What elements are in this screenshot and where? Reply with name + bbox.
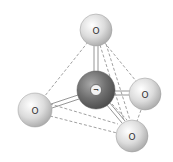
- atom-label: ¬: [93, 86, 99, 94]
- atom-top: O: [80, 14, 112, 46]
- atom-label: O: [141, 90, 148, 100]
- atom-label: O: [92, 26, 99, 36]
- atom-label: O: [128, 132, 135, 142]
- atom-center: ¬: [77, 71, 115, 109]
- atom-bottom: O: [116, 120, 148, 152]
- atom-label: O: [31, 106, 38, 116]
- bond-left-b: [52, 99, 79, 108]
- tetrahedral-molecule-diagram: O O ¬ O O: [0, 0, 173, 162]
- atom-right: O: [129, 78, 161, 110]
- edge-right-bottom: [137, 110, 141, 121]
- atom-left: O: [18, 93, 52, 127]
- bond-bottom-b: [109, 102, 125, 121]
- edge-left-bottom-b: [50, 104, 118, 124]
- edge-top-right: [104, 42, 136, 81]
- edge-center-bottom: [112, 104, 127, 120]
- edge-left-bottom-a: [50, 116, 117, 133]
- bond-left-a: [51, 95, 78, 104]
- bond-bottom-a: [106, 104, 122, 123]
